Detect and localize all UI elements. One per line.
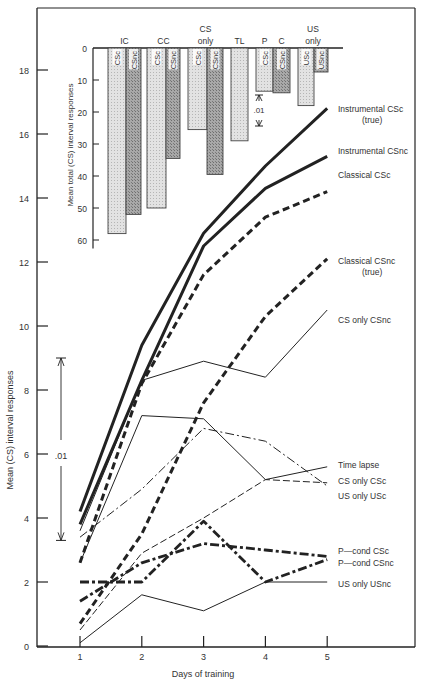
line-us-only-usnc [80,582,327,643]
series-label: CS only CSnc [338,315,392,325]
inset-y-tick-label: 10 [78,76,88,86]
y-tick-label: 12 [19,258,29,268]
y-tick-label: 6 [24,450,29,460]
inset-bar [126,48,141,214]
inset-bar [231,48,248,141]
inset-bar-label: CSc [153,51,162,65]
x-axis-label: Days of training [172,669,235,679]
line-p-cond-csc [80,544,327,602]
inset-group-label: IC [120,36,129,46]
series-label: Instrumental CSnc [338,146,409,156]
y-tick-label: 4 [24,514,29,524]
x-tick-label: 1 [77,652,82,662]
x-tick-label: 3 [201,652,206,662]
line-cs-only-csnc [80,310,327,531]
inset-group-label: CC [157,36,169,46]
inset-bar [147,48,166,208]
inset-y-tick-label: 20 [78,108,88,118]
y-tick-label: 14 [19,194,29,204]
inset-y-tick-label: 60 [78,236,88,246]
inset-group-label: CS [200,24,212,34]
inset-group-label: P [262,36,268,46]
series-labels: Instrumental CSc(true)Instrumental CSncC… [338,104,409,589]
x-tick-label: 2 [139,652,144,662]
inset-y-tick-label: 30 [78,140,88,150]
significance-bar-main: .01 [55,358,68,540]
svg-text:.01: .01 [55,451,68,461]
inset-bar-chart: 0102030405060Mean total (CS) interval re… [66,24,343,248]
inset-bar-label: CSnc [169,51,178,70]
inset-group-label: only [198,36,214,46]
inset-bar-label: CSc [194,51,203,65]
x-tick-label: 5 [325,652,330,662]
series-label: Time lapse [338,460,380,470]
y-axis-label: Mean (CS) interval responses [5,370,15,490]
y-tick-label: 8 [24,386,29,396]
series-label: P—cond CSnc [338,558,394,568]
inset-group-label: TL [235,36,245,46]
inset-bar [108,48,126,234]
inset-bar-label: CSc [261,51,270,65]
inset-bar-label: USc [302,51,311,65]
inset-bar-label: CSnc [130,51,139,70]
inset-y-axis-label: Mean total (CS) interval responses [66,83,75,206]
series-label: Classical CSc [338,170,391,180]
y-tick-label: 10 [19,322,29,332]
series-label: Instrumental CSc(true) [338,104,404,125]
line-us-only-usc [80,480,327,630]
inset-y-tick-label: 50 [78,204,88,214]
x-axis-ticks: 12345 [77,636,329,662]
inset-significance-label: .01 [253,106,265,115]
series-label: CS only CSc [338,476,387,486]
chart-figure: 024681012141618 12345 Mean (CS) interval… [0,0,425,681]
y-axis-ticks: 024681012141618 [19,66,48,652]
inset-bar-label: CSc [113,51,122,65]
inset-bar-label: CSnc [278,51,287,70]
series-label: Classical CSnc(true) [338,256,396,277]
inset-y-tick-label: 40 [78,172,88,182]
x-tick-label: 4 [263,652,268,662]
inset-group-label: US [307,24,319,34]
inset-bar-label: USnc [317,51,326,70]
inset-bar-label: CSnc [211,51,220,70]
y-tick-label: 18 [19,66,29,76]
y-tick-label: 2 [24,578,29,588]
y-tick-label: 16 [19,130,29,140]
series-label: US only USc [338,491,387,501]
inset-group-label: C [278,36,284,46]
series-label: P—cond CSc [338,546,390,556]
y-tick-label: 0 [24,642,29,652]
inset-y-tick-label: 0 [82,44,87,54]
series-label: US only USnc [338,579,392,589]
inset-group-label: only [305,36,321,46]
